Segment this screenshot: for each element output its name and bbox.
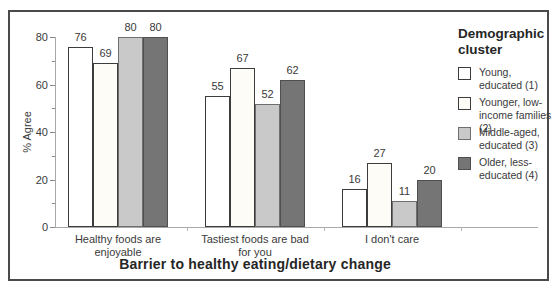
bar-value-label: 27 (373, 147, 385, 159)
x-category-tick (187, 227, 188, 231)
x-axis-title: Barrier to healthy eating/dietary change (75, 256, 435, 272)
y-axis-line (55, 37, 56, 227)
x-category-tick (324, 227, 325, 231)
y-tick (50, 37, 55, 38)
legend-item-label: Older, less- educated (4) (479, 156, 538, 182)
bar-value-label: 55 (211, 80, 223, 92)
bar (342, 189, 367, 227)
bar (143, 37, 168, 227)
y-axis-title: % Agree (21, 111, 33, 153)
y-minor-tick (52, 108, 55, 109)
y-tick-label: 0 (20, 221, 48, 234)
bar (68, 47, 93, 228)
legend-item: Middle-aged, educated (3) (458, 126, 540, 152)
legend-item: Young, educated (1) (458, 66, 538, 92)
x-category-label: I don't care (365, 233, 419, 246)
legend-item-label: Middle-aged, educated (3) (479, 126, 540, 152)
y-tick-label: 80 (20, 31, 48, 44)
bar-value-label: 67 (236, 52, 248, 64)
y-tick-label: 60 (20, 79, 48, 92)
legend-item: Older, less- educated (4) (458, 156, 538, 182)
y-minor-tick (52, 61, 55, 62)
bar-value-label: 11 (399, 185, 410, 197)
bar-value-label: 80 (124, 21, 136, 33)
legend-swatch (458, 67, 471, 80)
y-tick-label: 20 (20, 174, 48, 187)
legend-item-label: Young, educated (1) (479, 66, 538, 92)
bar (280, 80, 305, 227)
legend-swatch (458, 157, 471, 170)
bar-value-label: 16 (348, 173, 360, 185)
bar (392, 201, 417, 227)
bar (417, 180, 442, 228)
bar (255, 104, 280, 228)
bar (118, 37, 143, 227)
y-tick (50, 227, 55, 228)
bar-value-label: 20 (423, 164, 435, 176)
chart-figure: 02040608076698080Healthy foods are enjoy… (0, 0, 556, 294)
legend-title: Demographic cluster (458, 26, 544, 58)
bar (93, 63, 118, 227)
legend-swatch (458, 127, 471, 140)
bar-value-label: 52 (261, 88, 273, 100)
bar (230, 68, 255, 227)
bar (367, 163, 392, 227)
bar-value-label: 62 (286, 64, 298, 76)
x-axis-line (55, 227, 538, 228)
y-minor-tick (52, 156, 55, 157)
x-category-tick (461, 227, 462, 231)
bar (205, 96, 230, 227)
y-minor-tick (52, 203, 55, 204)
bar-value-label: 69 (99, 47, 111, 59)
y-tick (50, 180, 55, 181)
y-tick (50, 85, 55, 86)
bar-value-label: 80 (149, 21, 161, 33)
bar-value-label: 76 (74, 31, 86, 43)
legend-swatch (458, 97, 471, 110)
y-tick (50, 132, 55, 133)
